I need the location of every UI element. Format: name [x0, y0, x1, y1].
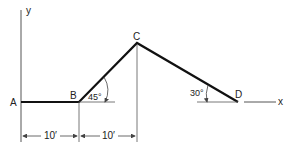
x-axis-label: x	[278, 96, 283, 107]
angle-arc-B-icon	[104, 77, 108, 102]
dim-label-BC: 10′	[102, 130, 115, 141]
angle-label-B: 45°	[88, 92, 102, 102]
point-label-D: D	[235, 89, 242, 100]
point-label-A: A	[10, 97, 17, 108]
point-label-B: B	[70, 90, 77, 101]
point-label-C: C	[133, 31, 140, 42]
angle-arc-D-icon	[206, 85, 208, 102]
truss-diagram: y x 45° 30° A B C D 10′ 10′	[0, 0, 285, 155]
member-ABCD	[21, 43, 238, 102]
y-axis-label: y	[26, 5, 31, 16]
dim-label-AB: 10′	[44, 130, 57, 141]
angle-label-D: 30°	[190, 88, 204, 98]
